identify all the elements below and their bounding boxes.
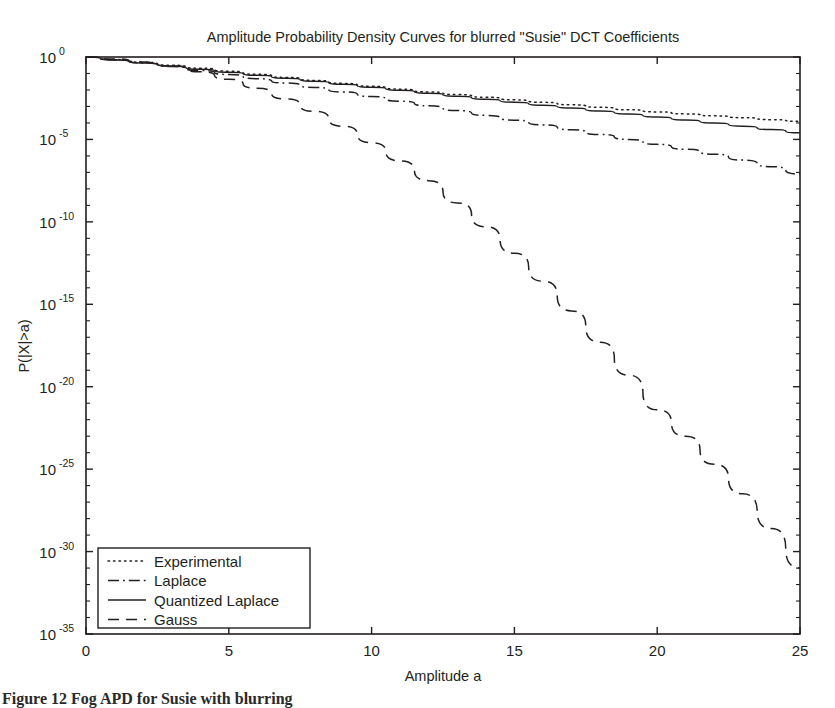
x-axis-tick-labels: 0510152025 <box>82 642 809 659</box>
figure-container: Amplitude Probability Density Curves for… <box>0 0 835 708</box>
y-tick-mantissa--15: 10 <box>39 296 56 313</box>
chart-title: Amplitude Probability Density Curves for… <box>207 29 679 45</box>
y-tick-mantissa-0: 10 <box>39 49 56 66</box>
y-tick-label--15: 10-15 <box>39 292 74 313</box>
y-tick-mantissa--35: 10 <box>39 626 56 643</box>
x-tick-label-10: 10 <box>363 642 380 659</box>
y-tick-label--35: 10-35 <box>39 622 74 643</box>
curve-experimental <box>86 57 800 121</box>
y-tick-exponent--5: -5 <box>59 127 68 139</box>
y-tick-label--25: 10-25 <box>39 457 74 478</box>
x-tick-label-15: 15 <box>506 642 523 659</box>
y-tick-label-0: 100 <box>39 45 65 66</box>
y-tick-exponent--15: -15 <box>59 292 74 304</box>
y-tick-mantissa--5: 10 <box>39 131 56 148</box>
y-tick-mantissa--30: 10 <box>39 544 56 561</box>
y-tick-label--30: 10-30 <box>39 540 74 561</box>
figure-caption-strip: Figure 12 Fog APD for Susie with blurrin… <box>0 690 835 708</box>
y-axis-tick-labels: 10010-510-1010-1510-2010-2510-3010-35 <box>39 45 74 643</box>
curve-gauss <box>86 57 800 568</box>
y-axis-title: P(|X|>a) <box>16 319 32 372</box>
legend-label-gauss: Gauss <box>154 611 197 628</box>
y-tick-label--10: 10-10 <box>39 210 74 231</box>
x-tick-label-0: 0 <box>82 642 90 659</box>
y-tick-exponent--10: -10 <box>59 210 74 222</box>
legend-label-quantized-laplace: Quantized Laplace <box>154 592 279 609</box>
curve-laplace <box>86 57 800 174</box>
y-tick-label--20: 10-20 <box>39 375 74 396</box>
data-curves <box>86 57 800 568</box>
y-tick-exponent--35: -35 <box>59 622 74 634</box>
y-tick-exponent-0: 0 <box>59 45 65 57</box>
x-tick-label-20: 20 <box>649 642 666 659</box>
legend-label-laplace: Laplace <box>154 572 207 589</box>
y-tick-mantissa--25: 10 <box>39 461 56 478</box>
y-tick-exponent--25: -25 <box>59 457 74 469</box>
y-tick-mantissa--20: 10 <box>39 379 56 396</box>
y-tick-exponent--30: -30 <box>59 540 74 552</box>
y-tick-mantissa--10: 10 <box>39 214 56 231</box>
curve-quantized-laplace <box>86 57 800 133</box>
y-tick-exponent--20: -20 <box>59 375 74 387</box>
y-tick-label--5: 10-5 <box>39 127 68 148</box>
amplitude-probability-density-chart: Amplitude Probability Density Curves for… <box>0 0 835 708</box>
x-axis-title: Amplitude a <box>405 668 483 684</box>
x-tick-label-25: 25 <box>792 642 809 659</box>
x-tick-label-5: 5 <box>225 642 233 659</box>
figure-caption: Figure 12 Fog APD for Susie with blurrin… <box>2 690 293 708</box>
chart-legend[interactable]: ExperimentalLaplaceQuantized LaplaceGaus… <box>98 548 310 628</box>
legend-label-experimental: Experimental <box>154 553 242 570</box>
